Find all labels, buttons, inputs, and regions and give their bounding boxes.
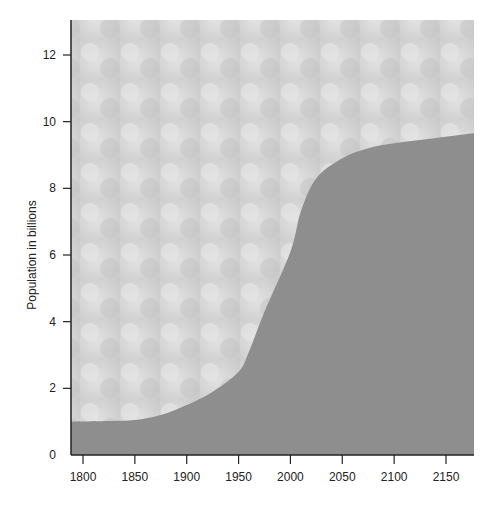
- population-chart: 024681012 180018501900195020002050210021…: [0, 0, 496, 509]
- x-tick-label: 2150: [433, 470, 460, 484]
- x-tick-label: 2100: [381, 470, 408, 484]
- y-tick-label: 12: [43, 48, 57, 62]
- x-tick-label: 2050: [329, 470, 356, 484]
- x-tick-label: 1950: [225, 470, 252, 484]
- y-tick-label: 8: [49, 181, 56, 195]
- y-tick-label: 0: [49, 448, 56, 462]
- y-axis-ticks: 024681012: [43, 48, 71, 462]
- y-tick-label: 2: [49, 381, 56, 395]
- y-axis-title: Population in billions: [25, 200, 39, 309]
- x-tick-label: 2000: [277, 470, 304, 484]
- x-tick-label: 1800: [70, 470, 97, 484]
- x-tick-label: 1900: [173, 470, 200, 484]
- x-axis-ticks: 18001850190019502000205021002150: [70, 455, 460, 484]
- y-tick-label: 10: [43, 115, 57, 129]
- x-tick-label: 1850: [122, 470, 149, 484]
- y-tick-label: 4: [49, 315, 56, 329]
- y-tick-label: 6: [49, 248, 56, 262]
